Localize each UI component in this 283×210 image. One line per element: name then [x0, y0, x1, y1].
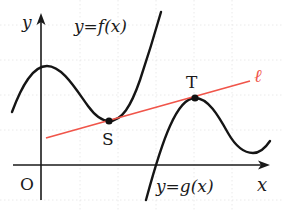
curve-f-label: y=f(x) — [73, 16, 127, 36]
x-axis-label: x — [257, 174, 267, 195]
point-s-label: S — [102, 129, 114, 149]
point-t — [191, 94, 198, 101]
tangent-line-label: ℓ — [254, 65, 262, 86]
background-grid — [0, 0, 283, 210]
y-axis-label: y — [21, 12, 32, 32]
curve-g-label: y=g(x) — [155, 176, 214, 196]
function-graph: y x O y=f(x) y=g(x) S T ℓ — [0, 0, 283, 210]
point-t-label: T — [186, 72, 198, 92]
point-s — [105, 117, 112, 124]
origin-label: O — [20, 174, 34, 194]
